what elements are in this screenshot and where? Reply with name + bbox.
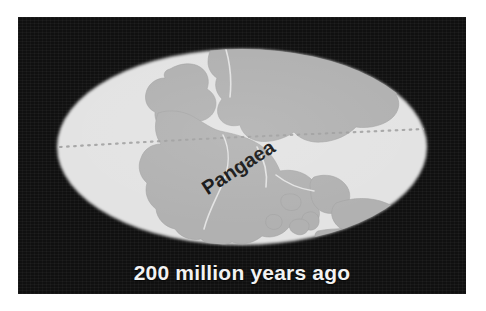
figure-root: Pangaea 200 million years ago <box>0 0 486 311</box>
tethys-fragment-c <box>266 214 282 229</box>
antarctica-sliver <box>315 229 377 252</box>
tethys-fragment-a <box>281 194 301 211</box>
australia-block <box>332 199 405 239</box>
pangaea-map-graphic: Pangaea <box>18 17 466 294</box>
caption-text: 200 million years ago <box>18 261 466 285</box>
map-panel: Pangaea 200 million years ago <box>18 17 466 294</box>
tethys-fragment-b <box>290 219 310 235</box>
laurasia-landmass <box>208 23 399 142</box>
